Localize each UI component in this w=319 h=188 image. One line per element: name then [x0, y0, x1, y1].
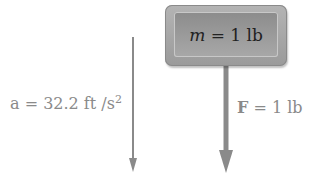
mass-label: m = 1 lb — [189, 25, 263, 45]
mass-symbol: m — [189, 25, 205, 45]
mass-block: m = 1 lb — [165, 5, 287, 66]
force-symbol: F — [237, 98, 248, 117]
acceleration-value: = 32.2 ft /s — [20, 94, 115, 113]
force-label: F = 1 lb — [237, 98, 303, 117]
acceleration-symbol: a — [10, 94, 20, 113]
acceleration-exponent: 2 — [115, 93, 122, 106]
acceleration-arrow — [129, 37, 137, 172]
free-body-diagram: m = 1 lb a = 32.2 ft /s2 F = 1 lb — [0, 0, 319, 188]
acceleration-label: a = 32.2 ft /s2 — [10, 93, 122, 113]
mass-value: 1 lb — [230, 25, 263, 45]
mass-block-face: m = 1 lb — [174, 12, 278, 57]
mass-equals: = — [205, 25, 230, 45]
force-arrow — [219, 66, 233, 173]
force-value: = 1 lb — [248, 98, 302, 117]
